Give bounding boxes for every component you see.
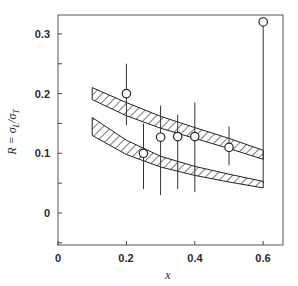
data-point xyxy=(174,132,182,140)
data-point xyxy=(191,132,199,140)
data-point xyxy=(156,133,164,141)
x-tick-0.2: 0.2 xyxy=(118,252,133,264)
data-point xyxy=(122,89,130,97)
data-point xyxy=(259,18,267,26)
x-axis-title: x xyxy=(164,268,171,282)
y-tick-0.2: 0.2 xyxy=(35,88,50,100)
x-tick-0.4: 0.4 xyxy=(187,252,203,264)
data-point xyxy=(225,143,233,151)
error-bars xyxy=(126,22,263,195)
y-tick-0.1: 0.1 xyxy=(35,147,50,159)
y-axis-title: R = σL/σT xyxy=(5,109,21,156)
chart: 0 0.2 0.4 0.6 0 0.1 0.2 0.3 x R = σL/σT xyxy=(0,0,298,286)
y-tick-0: 0 xyxy=(44,207,50,219)
y-tick-0.3: 0.3 xyxy=(35,28,50,40)
data-point xyxy=(139,149,147,157)
x-tick-0.6: 0.6 xyxy=(255,252,270,264)
x-tick-0: 0 xyxy=(55,252,61,264)
